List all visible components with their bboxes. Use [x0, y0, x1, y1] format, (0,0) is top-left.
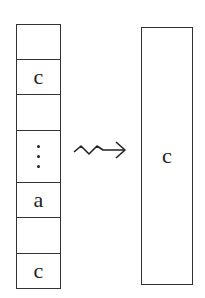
- cell-ellipsis: [16, 130, 61, 183]
- target-box: c: [141, 27, 193, 285]
- target-box-label: c: [162, 143, 172, 169]
- cell-label: c: [34, 258, 44, 284]
- cell-5: [16, 217, 61, 254]
- squiggly-arrow-icon: [72, 138, 130, 162]
- cell-1: c: [16, 59, 61, 95]
- vertical-ellipsis-icon: [37, 145, 40, 168]
- cell-0: [16, 24, 61, 60]
- cell-6: c: [16, 253, 61, 289]
- cell-label: a: [34, 187, 44, 213]
- cell-4: a: [16, 182, 61, 218]
- cell-label: c: [34, 64, 44, 90]
- cell-2: [16, 94, 61, 131]
